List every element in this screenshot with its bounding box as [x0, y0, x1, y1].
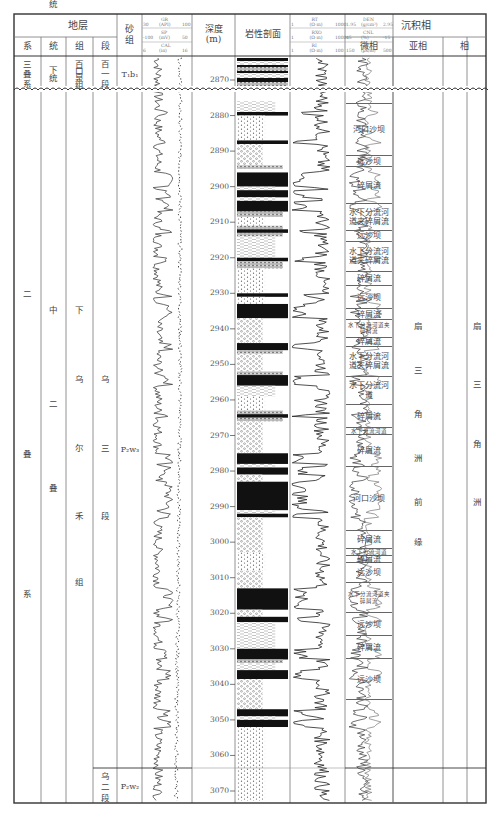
microfacies-cell: 水下分流河道 — [346, 428, 392, 435]
main-facies-char-2: 角 — [470, 440, 484, 450]
depth-tick-label: 2960 — [195, 395, 229, 404]
depth-tick-label: 2950 — [195, 359, 229, 368]
depth-tick-label: 2990 — [195, 502, 229, 511]
microfacies-cell: 远沙坝 — [346, 231, 392, 242]
main-system-char-0: 二 — [20, 290, 34, 300]
depth-tick-label: 2890 — [195, 146, 229, 155]
header-formation: 组 — [66, 37, 93, 56]
header-member: 段 — [93, 37, 117, 56]
main-sand-group: P₂w₃ — [119, 445, 141, 454]
main-subfacies-char-4: 前 — [411, 498, 425, 508]
depth-tick-label: 3040 — [195, 679, 229, 688]
header-sand-group: 砂组 — [117, 14, 142, 56]
upper-system-char-2: 系 — [20, 80, 34, 90]
main-formation-char-0: 下 — [72, 306, 86, 316]
log-column-graphics — [0, 0, 501, 813]
track2-curve-1-max: 1000 — [335, 35, 346, 40]
microfacies-cell: 水下分流河道夹碎屑流 — [346, 242, 392, 272]
microfacies-cell: 水下分流河道夹碎屑流 — [346, 583, 392, 613]
header-system: 系 — [14, 37, 41, 56]
depth-tick-label: 3050 — [195, 715, 229, 724]
depth-tick-label: 3020 — [195, 608, 229, 617]
upper-series-char-1: 统 — [46, 74, 60, 84]
microfacies-cell: 水下分流河道夹碎屑流 — [346, 347, 392, 377]
main-facies-char-1: 三 — [470, 380, 484, 390]
header-subfacies: 亚相 — [393, 37, 443, 56]
track3-curve-1-unit: (%) — [361, 35, 369, 40]
microfacies-cell: 远沙坝 — [346, 156, 392, 167]
track3-curve-1-max: -15 — [383, 35, 390, 40]
header-facies: 相 — [443, 37, 486, 56]
microfacies-cell: 远沙坝 — [346, 613, 392, 636]
lower-member-char-2: 段 — [98, 794, 112, 804]
depth-tick-label: 2940 — [195, 324, 229, 333]
depth-tick-label: 3000 — [195, 537, 229, 546]
main-subfacies-char-0: 扇 — [411, 322, 425, 332]
track1-curve-1-min: -100 — [143, 35, 153, 40]
depth-tick-label: 3060 — [195, 750, 229, 759]
track3-curve-2-max: 500 — [383, 48, 392, 53]
header-depth-unit: (m) — [206, 35, 222, 45]
track2-curve-0-max: 1000 — [335, 22, 346, 27]
main-series-char-2: 叠 — [46, 484, 60, 494]
depth-tick-label: 2870 — [195, 75, 229, 84]
microfacies-cell: 水下分流河道夹碎屑流 — [346, 320, 392, 338]
microfacies-cell: 碎屑流 — [346, 309, 392, 320]
main-system-char-2: 系 — [20, 590, 34, 600]
depth-tick-label: 2910 — [195, 217, 229, 226]
track1-curve-0-max: 100 — [182, 22, 191, 27]
track3-curve-0-unit: (g/cm³) — [361, 22, 378, 27]
depth-tick-label: 2980 — [195, 466, 229, 475]
microfacies-cell: 河口沙坝 — [346, 467, 392, 531]
lower-member-char-0: 乌 — [98, 772, 112, 782]
main-member-char-2: 段 — [98, 512, 112, 522]
stratigraphic-column-figure: 地层 系 统 组 段 砂组 深度 (m) 岩性剖面 沉积相 微相 亚相 相 GR… — [0, 0, 501, 813]
main-member-char-1: 三 — [98, 444, 112, 454]
depth-tick-label: 2880 — [195, 111, 229, 120]
track3-curve-0-max: 2.95 — [383, 22, 393, 27]
main-series-char-3: 统 — [46, 0, 60, 10]
main-formation-char-3: 禾 — [72, 512, 86, 522]
track2-curve-0-unit: (Ω·m) — [310, 22, 323, 27]
lower-sand-group: P₂w₂ — [119, 782, 141, 791]
main-subfacies-char-3: 洲 — [411, 454, 425, 464]
track1-curve-1-unit: (mV) — [159, 35, 170, 40]
track1-curve-0-min: 30 — [143, 22, 149, 27]
microfacies-cell: 碎屑流 — [346, 272, 392, 286]
header-series: 统 — [41, 37, 66, 56]
track3-curve-0-min: 1.95 — [346, 22, 356, 27]
microfacies-cell: 水下分流河道夹碎屑流 — [346, 204, 392, 231]
track2-curve-2-unit: (Ω·m) — [310, 48, 323, 53]
depth-tick-label: 2900 — [195, 182, 229, 191]
main-facies-char-0: 扇 — [470, 322, 484, 332]
microfacies-cell: 碎屑流 — [346, 556, 392, 563]
track3-curve-2-min: 150 — [346, 48, 355, 53]
track2-curve-2-min: 1 — [291, 48, 294, 53]
header-depth: 深度 (m) — [192, 14, 235, 56]
track2-curve-1-unit: (Ω·m) — [310, 35, 323, 40]
microfacies-cell: 远沙坝 — [346, 659, 392, 700]
depth-tick-label: 3070 — [195, 786, 229, 795]
main-formation-char-1: 乌 — [72, 375, 86, 385]
track1-curve-2-max: 16 — [182, 48, 188, 53]
microfacies-cell: 碎屑流 — [346, 436, 392, 468]
main-series-char-0: 中 — [46, 306, 60, 316]
main-member-char-0: 乌 — [98, 375, 112, 385]
microfacies-cell: 碎屑流 — [346, 338, 392, 347]
lower-member-char-1: 二 — [98, 783, 112, 793]
depth-tick-label: 3030 — [195, 644, 229, 653]
microfacies-cell: 碎屑流 — [346, 405, 392, 428]
track2-curve-2-max: 100 — [335, 48, 344, 53]
track2-curve-1-min: 1 — [291, 35, 294, 40]
track1-curve-1-max: 50 — [182, 35, 188, 40]
main-subfacies-char-1: 三 — [411, 366, 425, 376]
microfacies-cell: 碎屑流 — [346, 636, 392, 659]
microfacies-cell: 河口沙坝 — [346, 103, 392, 156]
track1-curve-2-unit: (in) — [159, 48, 167, 53]
depth-tick-label: 2970 — [195, 431, 229, 440]
main-formation-char-4: 组 — [72, 578, 86, 588]
upper-member-char-2: 段 — [98, 80, 112, 90]
track1-curve-0-unit: (API) — [159, 22, 171, 27]
track1-curve-2-min: 6 — [143, 48, 146, 53]
microfacies-cell: 碎屑流 — [346, 531, 392, 549]
